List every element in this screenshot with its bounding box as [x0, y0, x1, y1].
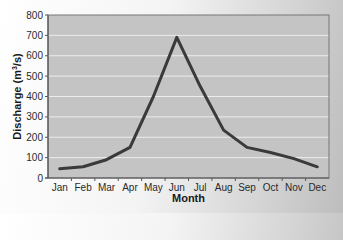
y-axis-title-unit: /s): [11, 53, 23, 66]
y-tick-label: 0: [37, 173, 43, 184]
y-tick-label: 300: [26, 111, 43, 122]
y-tick-label: 100: [26, 152, 43, 163]
x-tick-label: Aug: [215, 182, 233, 193]
y-tick-label: 600: [26, 50, 43, 61]
x-tick-label: Apr: [122, 182, 138, 193]
y-tick-label: 500: [26, 71, 43, 82]
x-tick-label: Sep: [238, 182, 256, 193]
x-tick-label: Feb: [75, 182, 93, 193]
y-tick-label: 800: [26, 10, 43, 21]
x-tick-label: Nov: [285, 182, 303, 193]
x-tick-label: Oct: [263, 182, 279, 193]
x-tick-label: Dec: [308, 182, 326, 193]
x-axis-title: Month: [172, 192, 205, 204]
x-tick-label: Jan: [52, 182, 68, 193]
y-axis-title: Discharge (m3/s): [11, 53, 23, 140]
y-axis-title-main: Discharge (m: [11, 70, 23, 140]
x-tick-label: Mar: [98, 182, 116, 193]
y-axis-ticks: 0100200300400500600700800: [26, 10, 48, 184]
discharge-line-chart: 0100200300400500600700800 JanFebMarAprMa…: [0, 0, 343, 213]
y-tick-label: 400: [26, 91, 43, 102]
x-axis-ticks: JanFebMarAprMayJunJulAugSepOctNovDec: [52, 178, 327, 193]
x-tick-label: May: [144, 182, 163, 193]
y-tick-label: 200: [26, 132, 43, 143]
y-tick-label: 700: [26, 30, 43, 41]
